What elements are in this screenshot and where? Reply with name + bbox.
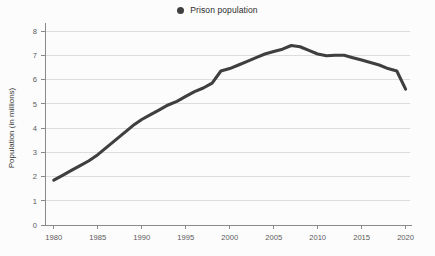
x-tick-label: 2000 xyxy=(221,233,238,242)
y-tick-label: 8 xyxy=(33,27,37,36)
x-tick-labels-group: 198019851990199520002005201020152020 xyxy=(45,233,414,242)
plot-area: 012345678 198019851990199520002005201020… xyxy=(0,0,435,256)
x-tick-label: 2015 xyxy=(353,233,370,242)
y-tick-labels-group: 012345678 xyxy=(33,27,37,230)
x-tickmarks-group xyxy=(54,225,406,229)
y-tick-label: 5 xyxy=(33,100,37,109)
y-tick-label: 4 xyxy=(33,124,37,133)
y-tick-label: 1 xyxy=(33,197,37,206)
y-tick-label: 6 xyxy=(33,75,37,84)
x-tick-label: 1980 xyxy=(45,233,62,242)
y-tick-label: 0 xyxy=(33,221,37,230)
prison-population-chart: Prison population 012345678 198019851990… xyxy=(0,0,435,256)
y-tick-label: 2 xyxy=(33,172,37,181)
x-tick-label: 1995 xyxy=(177,233,194,242)
x-tick-label: 2020 xyxy=(397,233,414,242)
x-tick-label: 1990 xyxy=(133,233,150,242)
y-tick-label: 3 xyxy=(33,148,37,157)
x-tick-label: 1985 xyxy=(89,233,106,242)
gridlines-group xyxy=(45,31,410,201)
x-tick-label: 2005 xyxy=(265,233,282,242)
y-axis-title: Population (in millions) xyxy=(7,87,16,168)
y-tick-label: 7 xyxy=(33,51,37,60)
series-line-prison-population xyxy=(54,46,406,181)
y-tickmarks-group xyxy=(41,31,45,225)
x-tick-label: 2010 xyxy=(309,233,326,242)
